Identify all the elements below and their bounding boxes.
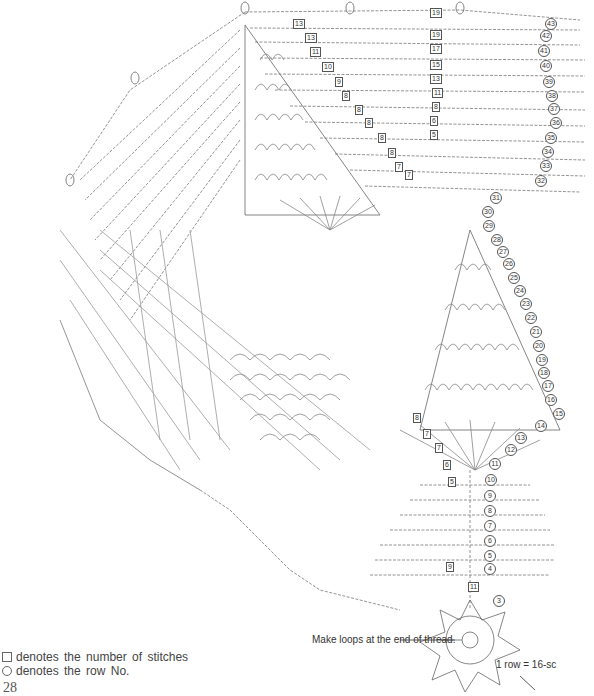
row-number-label: 5: [484, 550, 496, 562]
legend-item-stitches: denotes the number of stitches: [2, 650, 188, 664]
stitch-count-label: 17: [430, 44, 442, 54]
stitch-count-label: 11: [310, 47, 321, 57]
stitch-count-label: 8: [413, 413, 421, 423]
row-number-label: 42: [540, 30, 552, 42]
center-row-note: 1 row = 16-sc: [496, 659, 556, 670]
row-number-label: 41: [538, 45, 550, 57]
page-number: 28: [3, 680, 17, 696]
legend-rows-text: denotes the row No.: [16, 664, 129, 678]
row-number-label: 43: [545, 18, 557, 30]
row-number-label: 7: [484, 520, 496, 532]
row-number-label: 18: [538, 367, 550, 379]
stitch-count-label: 13: [305, 33, 317, 43]
row-number-label: 37: [548, 103, 560, 115]
row-number-label: 35: [545, 132, 557, 144]
row-number-label: 16: [545, 394, 557, 406]
stitch-count-label: 8: [388, 148, 396, 158]
row-number-label: 28: [491, 234, 503, 246]
row-number-label: 20: [533, 340, 545, 352]
row-number-label: 17: [542, 380, 554, 392]
row-number-label: 40: [540, 60, 552, 72]
row-number-label: 30: [482, 206, 494, 218]
stitch-count-label: 19: [430, 8, 442, 18]
row-number-label: 38: [546, 90, 558, 102]
stitch-count-label: 9: [446, 562, 454, 572]
stitch-count-label: 8: [432, 102, 440, 112]
stitch-count-label: 13: [293, 19, 305, 29]
stitch-count-label: 6: [430, 116, 438, 126]
crochet-chart-diagram: [0, 0, 594, 696]
circle-symbol-icon: [2, 666, 12, 676]
stitch-count-label: 8: [355, 105, 363, 115]
row-number-label: 31: [490, 192, 502, 204]
row-number-label: 9: [484, 490, 496, 502]
row-number-label: 32: [535, 175, 547, 187]
row-number-label: 24: [514, 285, 526, 297]
row-number-label: 6: [484, 535, 496, 547]
stitch-count-label: 15: [430, 60, 442, 70]
row-number-label: 3: [493, 595, 505, 607]
stitch-count-label: 7: [423, 429, 431, 439]
stitch-count-label: 10: [322, 62, 334, 72]
row-number-label: 13: [515, 432, 527, 444]
stitch-count-label: 7: [395, 162, 403, 172]
row-number-label: 34: [542, 146, 554, 158]
stitch-count-label: 11: [468, 582, 479, 592]
row-number-label: 26: [503, 258, 515, 270]
row-number-label: 4: [484, 563, 496, 575]
row-number-label: 8: [484, 505, 496, 517]
stitch-count-label: 6: [443, 460, 451, 470]
legend: denotes the number of stitches denotes t…: [2, 650, 188, 678]
stitch-count-label: 8: [342, 91, 350, 101]
row-number-label: 27: [497, 246, 509, 258]
row-number-label: 11: [489, 458, 501, 470]
stitch-count-label: 13: [430, 74, 442, 84]
stitch-count-label: 5: [430, 130, 438, 140]
row-number-label: 15: [553, 408, 565, 420]
legend-item-rows: denotes the row No.: [2, 664, 188, 678]
row-number-label: 19: [536, 354, 548, 366]
stitch-count-label: 7: [405, 170, 413, 180]
row-number-label: 14: [535, 420, 547, 432]
legend-stitches-text: denotes the number of stitches: [16, 650, 188, 664]
stitch-count-label: 9: [335, 77, 343, 87]
row-number-label: 39: [543, 76, 555, 88]
row-number-label: 12: [505, 444, 517, 456]
loops-note: Make loops at the end of thread.: [312, 634, 455, 645]
stitch-count-label: 19: [430, 30, 442, 40]
row-number-label: 21: [530, 326, 542, 338]
row-number-label: 10: [485, 474, 497, 486]
row-number-label: 23: [520, 298, 532, 310]
stitch-count-label: 8: [378, 133, 386, 143]
row-number-label: 33: [540, 160, 552, 172]
square-symbol-icon: [2, 652, 12, 662]
row-number-label: 29: [483, 220, 495, 232]
stitch-count-label: 7: [435, 443, 443, 453]
row-number-label: 22: [525, 312, 537, 324]
row-number-label: 36: [550, 117, 562, 129]
stitch-count-label: 8: [365, 118, 373, 128]
row-number-label: 25: [508, 272, 520, 284]
stitch-count-label: 5: [448, 477, 456, 487]
stitch-count-label: 11: [432, 88, 443, 98]
